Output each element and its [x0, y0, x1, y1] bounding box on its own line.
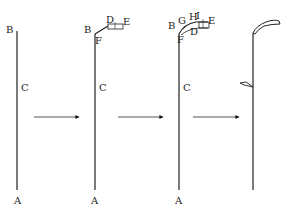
label-f: F — [177, 34, 184, 45]
label-c: C — [183, 82, 191, 93]
label-c: C — [21, 82, 29, 93]
label-b: B — [84, 24, 91, 35]
label-b: B — [6, 24, 13, 35]
label-e: E — [123, 16, 130, 27]
label-d: D — [106, 14, 114, 25]
label-a: A — [13, 195, 22, 206]
small-triangle-marker — [240, 82, 253, 87]
label-a: A — [174, 195, 183, 206]
label-g: G — [178, 15, 186, 26]
label-f: F — [95, 35, 102, 46]
diagram-canvas: B C A B F D E C A B G H I E D F C A — [0, 0, 291, 212]
lamp-head-shape — [253, 20, 280, 34]
label-b: B — [168, 20, 175, 31]
stage-4-pole — [240, 20, 280, 190]
stage-1-pole: B C A — [6, 24, 29, 206]
stage-2-pole: B F D E C A — [84, 14, 130, 206]
label-a: A — [90, 195, 99, 206]
label-d: D — [190, 26, 198, 37]
label-i: I — [196, 10, 200, 21]
label-c: C — [99, 82, 107, 93]
stage-3-pole: B G H I E D F C A — [168, 10, 215, 206]
label-e: E — [208, 15, 215, 26]
